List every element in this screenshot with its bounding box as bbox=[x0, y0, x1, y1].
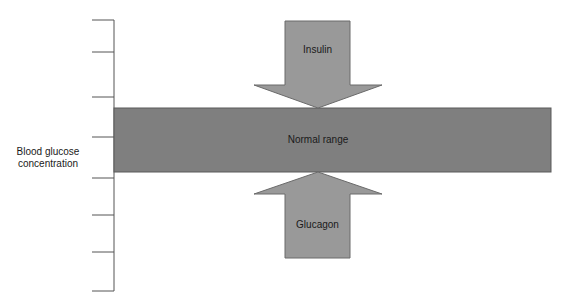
normal-range-label: Normal range bbox=[268, 134, 368, 146]
axis-label: Blood glucose concentration bbox=[0, 146, 96, 170]
glucagon-arrow bbox=[254, 172, 382, 258]
axis-label-line2: concentration bbox=[0, 158, 96, 170]
axis-label-line1: Blood glucose bbox=[0, 146, 96, 158]
glucagon-label: Glucagon bbox=[285, 219, 350, 231]
insulin-label: Insulin bbox=[285, 44, 350, 56]
insulin-arrow bbox=[254, 21, 382, 108]
